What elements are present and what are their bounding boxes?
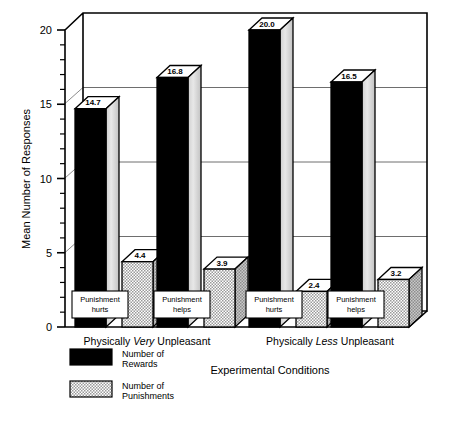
- legend-swatch-rewards: [70, 349, 112, 365]
- bar-value-label: 14.7: [85, 98, 101, 107]
- bar-front-face: [157, 78, 188, 328]
- caption-line-1: Punishment: [80, 295, 121, 304]
- legend-item-punishments: Number of Punishments: [70, 381, 175, 401]
- bar-side-face: [188, 66, 201, 328]
- caption-line-1: Punishment: [336, 295, 377, 304]
- group-label-very-unpleasant: Physically Very Unpleasant: [84, 335, 211, 347]
- bar-punishment-1: 3.9: [204, 257, 248, 327]
- group-label-prefix: Physically: [84, 335, 134, 347]
- group-label-emphasis: Less: [316, 335, 339, 347]
- bar-value-label: 16.8: [167, 67, 183, 76]
- bar-value-label: 16.5: [341, 72, 357, 81]
- ytick-label-0: 0: [46, 321, 52, 333]
- caption-line-2: helps: [347, 305, 365, 314]
- bar-front-face: [331, 82, 362, 327]
- legend-label-punishments-line1: Number of: [122, 381, 165, 391]
- bar-front-face: [249, 30, 280, 327]
- legend: Number of Rewards Number of Punishments: [70, 349, 175, 401]
- legend-item-rewards: Number of Rewards: [70, 349, 165, 369]
- bar-value-label: 3.2: [390, 269, 402, 278]
- group-label-emphasis: Very: [133, 335, 155, 347]
- bar-value-label: 4.4: [134, 251, 146, 260]
- bar-reward-1: 16.8: [157, 66, 201, 328]
- caption-line-1: Punishment: [254, 295, 295, 304]
- condition-caption-2: Punishment hurts: [246, 291, 302, 318]
- legend-swatch-punishments: [70, 381, 112, 397]
- y-axis: 20 15 10 5 0: [40, 24, 65, 333]
- legend-label-punishments-line2: Punishments: [122, 391, 175, 401]
- bar-reward-3: 16.5: [331, 70, 375, 327]
- group-label-suffix: Unpleasant: [338, 335, 394, 347]
- caption-line-1: Punishment: [162, 295, 203, 304]
- group-label-less-unpleasant: Physically Less Unpleasant: [266, 335, 394, 347]
- condition-caption-3: Punishment helps: [328, 291, 384, 318]
- group-label-suffix: Unpleasant: [154, 335, 210, 347]
- legend-label-rewards-line1: Number of: [122, 349, 165, 359]
- caption-line-2: hurts: [266, 305, 283, 314]
- caption-line-2: helps: [173, 305, 191, 314]
- bar-reward-2: 20.0: [249, 18, 293, 327]
- bar-value-label: 2.4: [308, 281, 320, 290]
- legend-label-rewards-line2: Rewards: [122, 359, 158, 369]
- caption-line-2: hurts: [92, 305, 109, 314]
- ytick-label-10: 10: [40, 173, 52, 185]
- ytick-label-5: 5: [46, 247, 52, 259]
- bar-value-label: 3.9: [216, 259, 228, 268]
- chart-canvas: 20 15 10 5 0 Mean Number of Responses 14…: [0, 0, 458, 423]
- ytick-label-20: 20: [40, 24, 52, 36]
- condition-caption-0: Punishment hurts: [72, 291, 128, 318]
- bar-value-label: 20.0: [259, 20, 275, 29]
- bar-side-face: [280, 18, 293, 327]
- bar-side-face: [362, 70, 375, 327]
- bar-chart-figure: 20 15 10 5 0 Mean Number of Responses 14…: [0, 0, 458, 423]
- group-label-prefix: Physically: [266, 335, 316, 347]
- y-axis-title: Mean Number of Responses: [20, 108, 32, 249]
- ytick-label-15: 15: [40, 98, 52, 110]
- bar-punishment-3: 3.2: [378, 268, 422, 328]
- condition-caption-1: Punishment helps: [154, 291, 210, 318]
- x-axis-title: Experimental Conditions: [210, 364, 330, 376]
